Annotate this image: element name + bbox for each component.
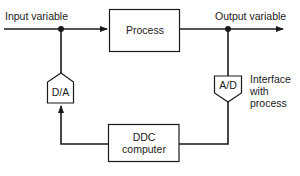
interface-label-line1: Interface [250, 73, 291, 85]
ddc-label-line1: DDC [109, 131, 179, 143]
input-variable-label: Input variable [5, 10, 68, 22]
ad-to-ddc-line [179, 102, 228, 144]
interface-label-line3: process [250, 97, 287, 109]
process-label: Process [110, 24, 180, 36]
ddc-to-da-line [61, 106, 108, 144]
output-variable-label: Output variable [215, 10, 286, 22]
interface-label-line2: with [250, 85, 269, 97]
ad-converter-label: A/D [214, 79, 242, 91]
da-converter-label: D/A [47, 86, 74, 98]
ddc-label-line2: computer [109, 143, 179, 155]
block-diagram: Input variable Output variable Process D… [0, 0, 300, 176]
